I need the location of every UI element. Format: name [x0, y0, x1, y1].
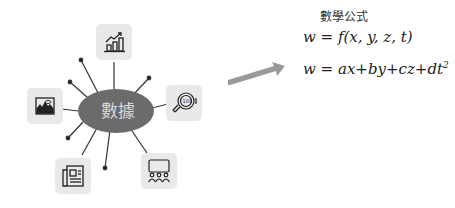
chart-growth-icon — [100, 28, 128, 56]
node-magnifier: 101 — [166, 85, 202, 121]
formula-2: w = ax+by+cz+dt2 — [303, 60, 449, 78]
node-newspaper — [55, 158, 91, 194]
formula-2-main: w = ax+by+cz+dt — [303, 60, 443, 78]
hub-label: 數據 — [80, 99, 156, 123]
formula-2-exponent: 2 — [443, 60, 449, 70]
magnifier-binary-icon: 101 — [170, 89, 198, 117]
formula-1: w = f(x, y, z, t) — [303, 28, 413, 46]
newspaper-icon — [59, 162, 87, 190]
formulas-title: 數學公式 — [320, 7, 368, 24]
node-image — [27, 88, 63, 124]
svg-text:101: 101 — [183, 98, 193, 104]
arrow-right-icon — [228, 62, 285, 85]
node-chart — [96, 24, 132, 60]
presentation-audience-icon — [145, 157, 173, 185]
node-presentation — [141, 153, 177, 189]
image-landscape-icon — [31, 92, 59, 120]
